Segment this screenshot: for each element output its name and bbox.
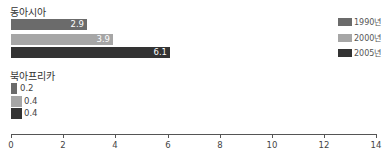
legend-label: 2005년 [354,49,381,58]
tick [11,134,12,138]
bar-north-africa-2000 [11,96,22,107]
tick-label: 8 [210,140,230,150]
bar-value: 0.2 [20,83,34,94]
tick [272,134,273,138]
bar-value: 3.9 [96,34,110,45]
tick-label: 6 [158,140,178,150]
tick [376,134,377,138]
bar-east-asia-2005: 6.1 [11,47,170,58]
bar-east-asia-2000: 3.9 [11,34,113,45]
tick-label: 10 [262,140,282,150]
bar-north-africa-2005 [11,108,22,119]
tick [63,134,64,138]
bar-value: 2.9 [70,19,84,30]
legend-swatch [338,49,352,57]
legend-label: 1990년 [354,18,381,27]
tick [115,134,116,138]
bar-value: 6.1 [153,47,167,58]
group-label-east-asia: 동아시아 [10,4,46,19]
tick [324,134,325,138]
legend-swatch [338,18,352,26]
tick-label: 12 [314,140,334,150]
legend-label: 2000년 [354,34,381,43]
bar-value: 0.4 [24,96,38,107]
legend-swatch [338,34,352,42]
tick-label: 0 [1,140,21,150]
tick [220,134,221,138]
x-axis-line [11,134,376,135]
tick-label: 14 [366,140,386,150]
bar-value: 0.4 [24,108,38,119]
tick-label: 4 [105,140,125,150]
tick-label: 2 [53,140,73,150]
bar-east-asia-1990: 2.9 [11,19,87,30]
bar-north-africa-1990 [11,83,17,94]
tick [168,134,169,138]
group-label-north-africa: 북아프리카 [10,68,55,83]
